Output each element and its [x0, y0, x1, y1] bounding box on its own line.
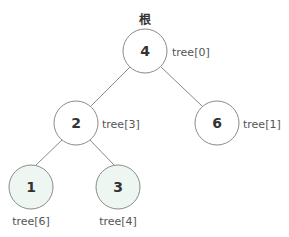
binary-tree-diagram: 根 4 tree[0] 2 tree[3] 6 tree[1] 1 tree[6…	[0, 0, 289, 237]
node-value: 6	[212, 115, 222, 131]
tree-node-root: 4	[123, 29, 167, 73]
edge-4-2	[91, 67, 130, 106]
node-index-label: tree[4]	[99, 215, 137, 228]
node-index-label: tree[0]	[172, 46, 210, 59]
node-value: 1	[26, 179, 36, 195]
node-index-label: tree[6]	[12, 215, 50, 228]
root-label: 根	[139, 12, 151, 27]
node-index-label: tree[3]	[102, 118, 140, 131]
tree-node-leaf-right: 3	[96, 165, 140, 209]
tree-node-right: 6	[195, 101, 239, 145]
tree-node-left: 2	[54, 101, 98, 145]
edge-2-3	[90, 140, 114, 165]
node-value: 3	[113, 179, 123, 195]
edge-2-1	[36, 140, 62, 165]
tree-node-leaf-left: 1	[9, 165, 53, 209]
node-value: 2	[71, 115, 81, 131]
node-index-label: tree[1]	[243, 118, 281, 131]
edge-4-6	[161, 67, 202, 106]
node-value: 4	[140, 43, 150, 59]
